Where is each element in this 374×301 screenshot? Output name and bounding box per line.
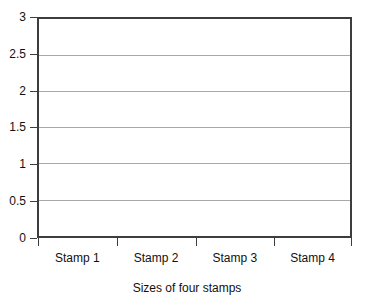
x-axis-label-stamp-3: Stamp 3 <box>196 251 275 265</box>
y-axis-label-1: 1 <box>19 158 26 170</box>
y-tick-mark-3 <box>30 17 37 18</box>
x-axis-label-stamp-1: Stamp 1 <box>38 251 117 265</box>
y-tick-mark-2.5 <box>30 54 37 55</box>
x-tick-mark-2 <box>196 238 197 246</box>
gridline-0.5 <box>39 200 350 201</box>
y-tick-mark-0.5 <box>30 201 37 202</box>
y-axis-label-3: 3 <box>19 11 26 23</box>
bar-chart-figure: 3 2.5 2 1.5 1 0.5 0 Stamp 1 Stamp 2 Stam… <box>0 0 374 301</box>
y-axis-label-2: 2 <box>19 85 26 97</box>
bars-layer <box>78 38 374 257</box>
x-tick-mark-1 <box>117 238 118 246</box>
y-tick-mark-1.5 <box>30 127 37 128</box>
gridline-1.0 <box>39 163 350 164</box>
gridline-1.5 <box>39 127 350 128</box>
gridline-2.5 <box>39 55 350 56</box>
y-tick-mark-2 <box>30 91 37 92</box>
x-axis-label-stamp-4: Stamp 4 <box>274 251 351 265</box>
y-axis-label-0.5: 0.5 <box>9 195 26 207</box>
x-axis-title: Sizes of four stamps <box>0 281 374 295</box>
x-tick-mark-0 <box>38 238 39 246</box>
y-axis-label-0: 0 <box>19 232 26 244</box>
x-axis-label-stamp-2: Stamp 2 <box>117 251 196 265</box>
y-axis-label-1.5: 1.5 <box>9 121 26 133</box>
x-tick-mark-3 <box>274 238 275 246</box>
y-tick-mark-0 <box>30 238 37 239</box>
plot-area <box>37 17 352 238</box>
gridline-2.0 <box>39 91 350 92</box>
y-axis-label-2.5: 2.5 <box>9 48 26 60</box>
y-tick-mark-1 <box>30 164 37 165</box>
x-tick-mark-4 <box>351 238 352 246</box>
